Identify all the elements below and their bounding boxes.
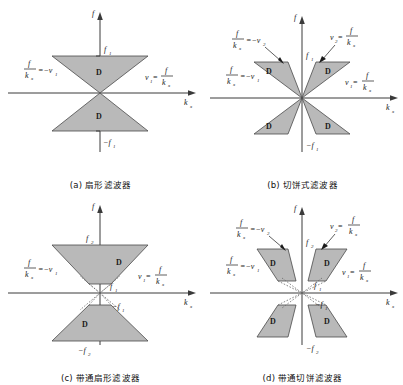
region-label-lower-left: D xyxy=(270,317,276,326)
label-neg-f1-sub: 1 xyxy=(113,144,116,149)
frac-denominator: k xyxy=(349,227,353,236)
panel-b-plot: f k x f 1 −f 1 D D D D f k x =−v 2 xyxy=(202,0,403,168)
y-axis-label: f xyxy=(92,202,96,211)
x-axis-arrow xyxy=(188,290,196,296)
frac-denominator: k xyxy=(363,83,367,92)
label-neg-f1-sub: 1 xyxy=(325,306,328,311)
frac-denominator: k xyxy=(25,270,29,279)
frac-numerator: f xyxy=(350,26,354,35)
equals-sign: = xyxy=(146,272,151,281)
region-upper-left xyxy=(257,249,296,281)
panel-b-pie-slice-filter: f k x f 1 −f 1 D D D D f k x =−v 2 xyxy=(202,0,403,192)
frac-denominator-sub: x xyxy=(167,83,171,88)
region-label-upper: D xyxy=(116,258,122,267)
frac-numerator: f xyxy=(159,265,163,274)
frac-denominator: k xyxy=(162,78,166,87)
slope-label-outer-left: f k x =−v 2 xyxy=(236,218,286,251)
x-axis-arrow xyxy=(188,90,196,96)
slope-value: =−v xyxy=(250,225,265,234)
region-upper xyxy=(52,245,148,284)
panel-c-bandpass-fan-filter: f k x f 2 −f 2 f 1 −f 1 D D f k x xyxy=(0,193,201,385)
x-axis-label-sub: x xyxy=(391,109,395,114)
frac-numerator: f xyxy=(28,59,32,68)
panel-b-caption: (b) 切饼式滤波器 xyxy=(202,178,403,190)
frac-denominator-sub: x xyxy=(232,82,236,87)
y-axis-arrow xyxy=(299,16,305,24)
panel-d-caption: (d) 带通切饼滤波器 xyxy=(202,371,403,383)
slope-label-inner-left: f k x =−v 1 xyxy=(226,65,260,87)
label-f2-sub: 2 xyxy=(311,244,314,249)
panel-a-fan-filter: f k x f 1 −f 1 D D f k x =−v 1 xyxy=(0,0,201,192)
frac-denominator: k xyxy=(233,41,237,50)
frac-numerator: f xyxy=(236,29,240,38)
slope-label-outer-right: v 2 = f k x xyxy=(321,215,360,250)
label-f2-sub: 2 xyxy=(91,240,94,245)
slope-label-outer-right: v 2 = f k x xyxy=(319,26,358,63)
frac-denominator: k xyxy=(25,71,29,80)
y-axis-label: f xyxy=(294,204,298,213)
frac-numerator: f xyxy=(366,71,370,80)
slope-label-left: f k x =−v 1 xyxy=(24,258,58,280)
leader-line xyxy=(265,47,281,61)
region-label-upper-left: D xyxy=(266,67,272,76)
slope-label-inner-left: f k x =−v 1 xyxy=(226,255,260,277)
x-axis-label: k xyxy=(184,298,188,307)
region-lower-left xyxy=(254,98,302,134)
region-label-upper-left: D xyxy=(270,259,276,268)
slope-value: v xyxy=(138,272,142,281)
frac-denominator-sub: x xyxy=(352,43,356,48)
region-label-lower-right: D xyxy=(325,122,331,131)
region-label-upper: D xyxy=(96,68,102,77)
frac-denominator-sub: x xyxy=(242,235,246,240)
label-f1: f xyxy=(306,51,310,60)
panel-c-plot: f k x f 2 −f 2 f 1 −f 1 D D f k x xyxy=(0,193,201,361)
y-axis-arrow xyxy=(299,207,305,215)
equals-sign: = xyxy=(153,73,158,82)
label-f1: f xyxy=(110,282,114,291)
slope-label-left: f k x =−v 1 xyxy=(24,59,58,81)
region-label-lower: D xyxy=(82,320,88,329)
label-neg-f1: −f xyxy=(103,138,112,147)
frac-denominator: k xyxy=(227,267,231,276)
region-lower xyxy=(52,305,148,341)
frac-denominator: k xyxy=(237,230,241,239)
frac-denominator-sub: x xyxy=(232,272,236,277)
panel-a-plot: f k x f 1 −f 1 D D f k x =−v 1 xyxy=(0,0,201,168)
panel-d-plot: f k x f 2 −f 2 f 1 −f 1 D D D D f k xyxy=(202,193,403,361)
slope-value: =−v xyxy=(246,36,261,45)
frac-numerator: f xyxy=(230,65,234,74)
label-f2: f xyxy=(86,234,90,243)
label-f1-sub: 1 xyxy=(115,288,118,293)
frac-numerator: f xyxy=(165,66,169,75)
slope-value: v xyxy=(342,268,346,277)
label-neg-f1-sub: 1 xyxy=(316,147,319,152)
region-label-upper-right: D xyxy=(325,67,331,76)
region-label-lower: D xyxy=(96,112,102,121)
x-axis-label: k xyxy=(386,103,390,112)
label-f1-sub: 1 xyxy=(319,287,322,292)
frac-denominator: k xyxy=(156,277,160,286)
frac-numerator: f xyxy=(28,258,32,267)
slope-value-sub: 2 xyxy=(267,231,270,236)
frac-denominator-sub: x xyxy=(365,278,369,283)
equals-sign: = xyxy=(350,268,355,277)
x-axis-arrow xyxy=(390,290,398,296)
label-neg-f2: −f xyxy=(306,344,315,353)
region-upper-left xyxy=(254,62,302,98)
label-neg-f1: −f xyxy=(306,141,315,150)
slope-value: v xyxy=(345,78,349,87)
slope-label-inner-right: v 1 = f k x xyxy=(345,71,374,93)
x-axis-label-sub: x xyxy=(189,104,193,109)
frac-denominator-sub: x xyxy=(30,275,34,280)
equals-sign: = xyxy=(338,222,343,231)
slope-label-outer-left: f k x =−v 2 xyxy=(232,29,284,64)
slope-value-sub: 1 xyxy=(257,78,260,83)
slope-value: v xyxy=(330,222,334,231)
x-axis-label: k xyxy=(386,298,390,307)
slope-value-sub: 1 xyxy=(257,268,260,273)
figure-grid: f k x f 1 −f 1 D D f k x =−v 1 xyxy=(0,0,403,385)
frac-numerator: f xyxy=(230,255,234,264)
slope-label-inner-right: v 1 = f k x xyxy=(342,261,371,283)
label-f2: f xyxy=(306,238,310,247)
panel-a-caption: (a) 扇形滤波器 xyxy=(0,178,201,190)
